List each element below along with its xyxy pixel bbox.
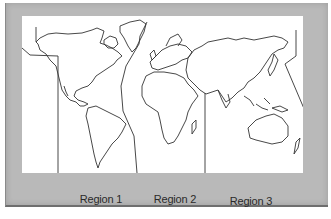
asia: [186, 36, 288, 102]
southeast-asia-islands: [244, 96, 270, 110]
madagascar: [192, 120, 196, 134]
new-guinea: [272, 106, 288, 112]
new-zealand: [294, 138, 300, 154]
world-map: [22, 16, 303, 173]
africa: [142, 72, 198, 144]
north-america: [36, 28, 122, 106]
arctic-islands: [104, 36, 118, 48]
region-1-label: Region 1: [80, 193, 122, 205]
british-isles: [150, 50, 156, 60]
scandinavia: [166, 34, 182, 46]
south-america: [86, 106, 126, 168]
europe: [150, 44, 192, 70]
world-map-outline: [22, 16, 303, 173]
australia: [248, 114, 288, 144]
greenland: [120, 20, 146, 52]
region-3-label: Region 3: [230, 195, 272, 207]
region-2-label: Region 2: [154, 193, 196, 205]
